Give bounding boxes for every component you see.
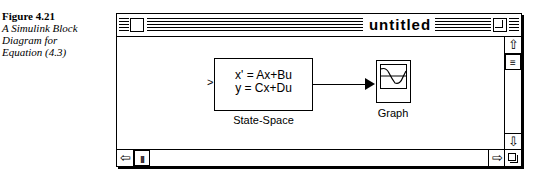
scroll-right-arrow-icon[interactable]: ⇨ — [488, 150, 505, 166]
title-stripes — [435, 18, 491, 31]
window-title: untitled — [365, 15, 435, 35]
horizontal-scroll-thumb[interactable]: ||| — [134, 150, 150, 166]
state-space-label: State-Space — [214, 114, 313, 126]
zoom-box-icon[interactable] — [493, 18, 507, 32]
scroll-up-arrow-icon[interactable]: ⇧ — [505, 37, 521, 54]
graph-label: Graph — [369, 107, 417, 119]
vertical-scroll-track[interactable] — [505, 70, 521, 133]
caption-line-2: Diagram for — [2, 34, 112, 46]
title-stripes — [119, 18, 129, 31]
output-equation: y = Cx+Du — [215, 82, 312, 95]
signal-arrowhead-icon — [365, 78, 375, 90]
scroll-left-arrow-icon[interactable]: ⇦ — [117, 150, 134, 166]
state-space-equations: x' = Ax+Bu y = Cx+Du — [215, 69, 312, 95]
horizontal-scroll-track[interactable] — [150, 150, 488, 166]
state-space-block[interactable]: x' = Ax+Bu y = Cx+Du — [214, 58, 313, 111]
resize-grow-box-icon[interactable] — [504, 149, 521, 166]
figure-caption: Figure 4.21 A Simulink Block Diagram for… — [2, 10, 112, 58]
title-bar[interactable]: untitled — [117, 14, 521, 37]
thumb-grip-icon: ≡ — [510, 57, 516, 68]
thumb-grip-icon: ||| — [140, 154, 144, 163]
graph-block[interactable] — [376, 60, 411, 103]
vertical-scrollbar[interactable]: ⇧ ≡ ⇩ — [504, 37, 521, 150]
vertical-scroll-thumb[interactable]: ≡ — [505, 54, 521, 70]
close-box-icon[interactable] — [130, 18, 144, 32]
signal-line[interactable] — [312, 84, 366, 85]
caption-line-3: Equation (4.3) — [2, 46, 112, 58]
diagram-canvas[interactable]: > x' = Ax+Bu y = Cx+Du State-Space Graph — [117, 37, 505, 150]
model-window: untitled > x' = Ax+Bu y = Cx+Du State-Sp… — [116, 13, 522, 167]
graph-scope-icon — [380, 64, 407, 89]
scroll-down-arrow-icon[interactable]: ⇩ — [505, 133, 521, 150]
title-stripes — [509, 18, 519, 31]
input-port-chevron-icon: > — [207, 77, 213, 88]
caption-line-1: A Simulink Block — [2, 22, 112, 34]
figure-number: Figure 4.21 — [2, 10, 112, 22]
horizontal-scrollbar[interactable]: ⇦ ||| ⇨ — [117, 149, 505, 166]
title-stripes — [147, 18, 363, 31]
